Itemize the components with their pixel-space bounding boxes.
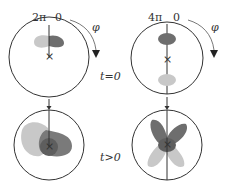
panel-left-tpos: × [14, 110, 84, 180]
center-cross-icon: × [163, 53, 172, 66]
diagram: × 2π 0 φ × 4π 0 φ t=0 × t>0 [0, 0, 229, 186]
lobe-light [34, 35, 49, 47]
lobe-dark [49, 35, 64, 47]
label-0: 0 [55, 11, 62, 24]
phi-label: φ [92, 21, 100, 34]
label-0: 0 [173, 11, 180, 24]
label-tpos: t>0 [100, 151, 121, 164]
panel-right-t0: × 4π 0 φ [131, 11, 219, 94]
center-cross-icon: × [45, 50, 54, 63]
label-4pi: 4π [148, 11, 162, 24]
arrowhead-icon [210, 50, 218, 58]
center-cross-icon: × [45, 140, 54, 153]
arrowhead-icon [92, 50, 100, 58]
label-t0: t=0 [100, 70, 121, 83]
center-cross-icon: × [163, 138, 172, 151]
label-2pi: 2π [32, 11, 46, 24]
phi-label: φ [211, 21, 219, 34]
lobe-light [158, 74, 176, 86]
lobe-dark [158, 33, 176, 45]
arrowhead-icon [47, 106, 52, 110]
panel-left-t0: × 2π 0 φ [9, 11, 100, 97]
panel-right-tpos: × [132, 110, 202, 180]
arrowhead-icon [165, 106, 170, 110]
